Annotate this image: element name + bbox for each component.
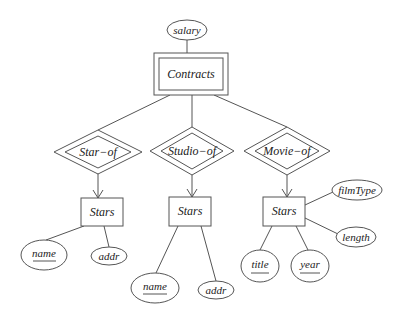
relationship-movie-of[interactable]: Movie−of (244, 127, 330, 175)
stars-name-connector (156, 226, 178, 273)
entity-label: Contracts (167, 67, 215, 81)
attribute-label: name (32, 247, 56, 259)
attribute-label: addr (99, 250, 121, 262)
relationship-label: Studio−of (168, 144, 218, 158)
attribute-label: filmType (338, 184, 376, 196)
attribute-title[interactable]: title (241, 250, 279, 282)
entity-label: Stars (178, 204, 203, 218)
relationship-label: Star−of (79, 145, 118, 159)
contracts-movieof-connector (214, 95, 287, 127)
relationship-studio-of[interactable]: Studio−of (150, 127, 234, 175)
attribute-name-mid[interactable]: name (131, 273, 179, 303)
entity-contracts[interactable]: Contracts (154, 53, 228, 95)
attribute-filmtype[interactable]: filmType (332, 180, 382, 200)
attribute-label: salary (173, 24, 201, 36)
attribute-year[interactable]: year (291, 250, 329, 282)
stars-year-connector (296, 226, 308, 250)
contracts-starof-connector (98, 95, 170, 130)
attribute-salary[interactable]: salary (167, 20, 207, 40)
stars-addr-connector (104, 226, 109, 247)
attribute-length[interactable]: length (336, 227, 376, 247)
entity-label: Stars (272, 204, 297, 218)
stars-name-connector (46, 226, 84, 240)
stars-addr-connector (201, 226, 216, 281)
attribute-name-left[interactable]: name (21, 240, 67, 270)
attribute-addr-left[interactable]: addr (91, 247, 127, 265)
attribute-label: year (299, 258, 320, 270)
attribute-label: title (251, 258, 268, 270)
stars-filmtype-connector (305, 192, 333, 205)
entity-stars-mid[interactable]: Stars (169, 197, 211, 226)
stars-title-connector (260, 226, 272, 250)
entity-label: Stars (90, 205, 115, 219)
entity-stars-right[interactable]: Stars (263, 197, 305, 226)
relationship-label: Movie−of (262, 144, 312, 158)
entity-stars-left[interactable]: Stars (81, 198, 123, 226)
attribute-label: name (143, 280, 167, 292)
stars-length-connector (305, 218, 338, 234)
attribute-label: length (342, 231, 370, 243)
attribute-label: addr (206, 284, 228, 296)
relationship-star-of[interactable]: Star−of (54, 130, 142, 174)
attribute-addr-mid[interactable]: addr (198, 281, 234, 299)
er-diagram: salary Contracts Star−of Studio−of Movie… (0, 0, 400, 318)
